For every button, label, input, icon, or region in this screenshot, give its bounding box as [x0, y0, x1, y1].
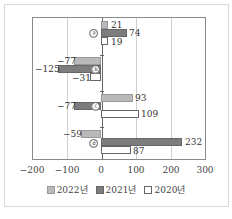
x-tick-label: 200: [162, 165, 179, 175]
value-label: 93: [135, 94, 146, 103]
axis-tick: [100, 127, 104, 128]
category-label-d: ⓓ: [89, 139, 98, 148]
legend-label: 2021년: [106, 185, 137, 195]
legend-item-2022: 2022년: [47, 185, 88, 195]
bar-c-2022: [101, 94, 133, 102]
bar-a-2020: [101, 37, 108, 45]
value-label: 74: [129, 29, 140, 38]
category-label-b: ⓑ: [91, 65, 100, 74]
legend-label: 2022년: [57, 185, 88, 195]
bar-a-2022: [101, 21, 108, 29]
bar-a-2021: [101, 29, 127, 37]
bar-b-2022: [74, 57, 101, 65]
axis-tick: [100, 91, 104, 92]
axis-tick: [100, 55, 104, 56]
bar-d-2022: [81, 130, 101, 138]
legend-swatch-icon: [47, 186, 55, 194]
value-label: 109: [141, 110, 158, 119]
value-label: 232: [185, 138, 202, 147]
bar-d-2020: [101, 146, 131, 154]
legend-swatch-icon: [96, 186, 104, 194]
bar-c-2020: [101, 110, 139, 118]
value-label: 21: [111, 21, 122, 30]
legend-label: 2020년: [154, 185, 185, 195]
value-label: 19: [111, 38, 122, 47]
x-tick-label: 0: [98, 165, 104, 175]
value-label: 87: [133, 147, 144, 156]
value-label: −31: [72, 74, 91, 83]
category-label-c: ⓒ: [91, 102, 100, 111]
legend-item-2021: 2021년: [96, 185, 137, 195]
legend-item-2020: 2020년: [144, 185, 185, 195]
x-tick-label: 100: [127, 165, 144, 175]
bar-d-2021: [101, 138, 182, 146]
value-label: −125: [35, 65, 60, 74]
value-label: −59: [63, 130, 82, 139]
x-tick-label: −100: [55, 165, 80, 175]
x-tick-label: 300: [196, 165, 213, 175]
legend-swatch-icon: [144, 186, 152, 194]
legend: 2022년 2021년 2020년: [0, 185, 232, 195]
category-label-a: ⓐ: [89, 29, 98, 38]
bar-b-2020: [90, 73, 101, 81]
x-tick-label: −200: [20, 165, 45, 175]
value-label: −77: [57, 102, 76, 111]
